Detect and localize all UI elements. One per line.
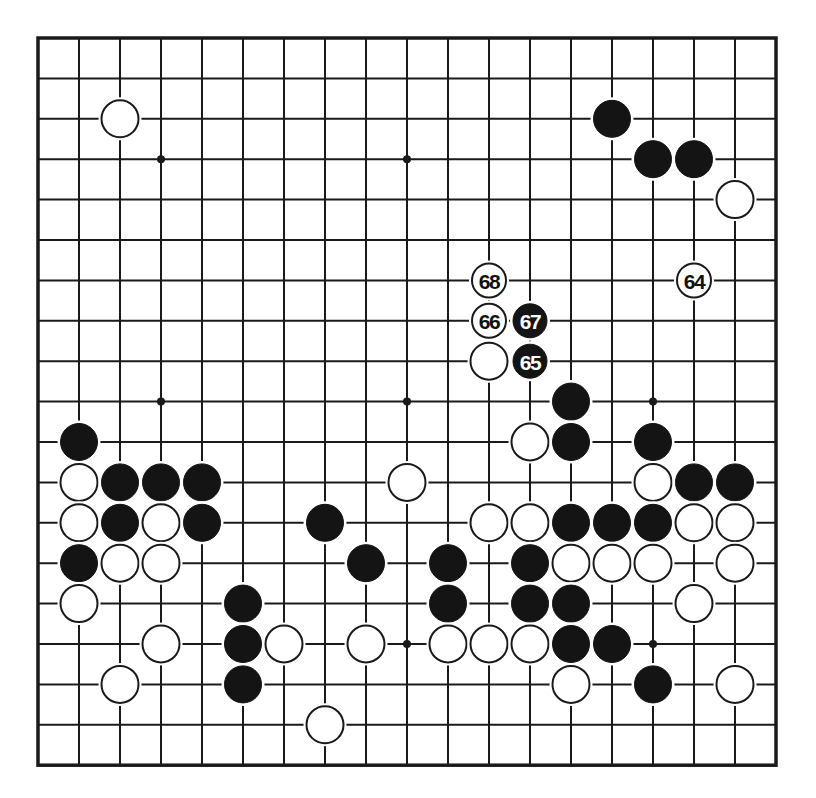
white-stone-icon [61,585,98,622]
move-number-label: 68 [479,270,501,293]
black-stone-icon [225,585,262,622]
white-stone-icon [471,343,508,380]
white-stone-icon [676,504,713,541]
white-stone-icon [348,626,385,663]
black-stone [99,461,142,504]
black-stone-icon [348,545,385,582]
white-stone [509,501,552,544]
black-stone [591,623,634,666]
go-board-diagram: 6864666765 [0,0,816,798]
white-stone-icon [512,504,549,541]
white-stone [140,542,183,585]
black-stone [509,582,552,625]
black-stone-icon [61,424,98,461]
black-stone-icon [512,585,549,622]
black-stone [181,501,224,544]
black-stone [632,663,675,706]
white-stone-icon [717,545,754,582]
star-point [403,398,411,406]
white-stone [140,501,183,544]
black-stone-icon [184,504,221,541]
white-stone-icon [512,626,549,663]
black-stone-icon [225,666,262,703]
move-number-label: 64 [684,270,706,293]
white-stone [140,623,183,666]
star-point [157,398,165,406]
white-stone [345,623,388,666]
white-stone-icon [102,666,139,703]
black-stone [591,97,634,140]
black-stone [550,582,593,625]
black-stone-icon [225,626,262,663]
white-stone-icon [635,464,672,501]
star-point [157,155,165,163]
white-stone-icon [143,626,180,663]
black-stone [58,421,101,464]
black-stone [673,138,716,181]
black-stone-icon [307,504,344,541]
black-stone-icon [594,100,631,137]
black-stone-icon [553,585,590,622]
black-stone [222,663,265,706]
white-stone-icon [61,464,98,501]
black-stone-icon [102,504,139,541]
white-stone [263,623,306,666]
white-stone-icon [717,181,754,218]
black-stone [550,623,593,666]
move-number-label: 67 [520,310,541,333]
move-number-label: 65 [520,351,542,374]
white-stone [714,663,757,706]
white-stone [509,421,552,464]
go-board: 6864666765 [0,0,816,798]
white-stone [427,623,470,666]
white-stone-icon [594,545,631,582]
white-stone [58,501,101,544]
white-stone-icon [471,626,508,663]
black-stone-icon [717,464,754,501]
white-stone [99,97,142,140]
white-stone-icon [430,626,467,663]
white-stone-icon [635,545,672,582]
black-stone-icon [430,545,467,582]
black-stone [714,461,757,504]
black-stone [632,421,675,464]
black-stone [509,542,552,585]
move-number-label: 66 [479,310,500,333]
black-stone [58,542,101,585]
black-stone [99,501,142,544]
white-stone-icon [143,545,180,582]
white-stone-icon [717,666,754,703]
numbered-black-stone: 65 [510,341,550,381]
black-stone-icon [594,504,631,541]
white-stone-icon [102,545,139,582]
black-stone-icon [553,383,590,420]
black-stone-icon [553,504,590,541]
black-stone-icon [184,464,221,501]
white-stone-icon [307,706,344,743]
black-stone-icon [102,464,139,501]
black-stone-icon [512,545,549,582]
white-stone-icon [471,504,508,541]
white-stone-icon [676,585,713,622]
black-stone [304,501,347,544]
black-stone-icon [553,626,590,663]
star-point [403,155,411,163]
black-stone [345,542,388,585]
black-stone-icon [594,626,631,663]
white-stone-icon [266,626,303,663]
black-stone [427,542,470,585]
star-point [649,640,657,648]
black-stone [222,582,265,625]
white-stone [550,663,593,706]
black-stone-icon [635,666,672,703]
white-stone [58,582,101,625]
black-stone-icon [676,141,713,178]
black-stone-icon [430,585,467,622]
white-stone [58,461,101,504]
black-stone-icon [676,464,713,501]
white-stone [509,623,552,666]
white-stone [99,542,142,585]
black-stone [632,501,675,544]
numbered-white-stone: 66 [469,301,509,341]
black-stone-icon [143,464,180,501]
